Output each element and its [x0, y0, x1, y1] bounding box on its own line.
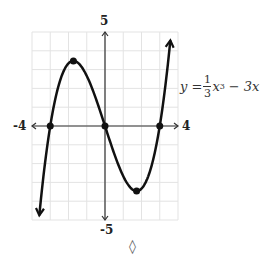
- x-min-label: -4: [13, 119, 26, 133]
- eq-var: x: [212, 79, 219, 94]
- eq-denominator: 3: [204, 88, 211, 99]
- eq-fraction: 1 3: [203, 74, 211, 99]
- eq-numerator: 1: [204, 74, 211, 85]
- y-max-label: 5: [100, 14, 108, 28]
- cubic-graph: [0, 0, 267, 266]
- eq-rest: − 3x: [229, 79, 260, 94]
- diamond-icon: ◊: [129, 238, 136, 254]
- equation-label: y = 1 3 x3 − 3x: [180, 74, 259, 99]
- eq-exponent: 3: [220, 82, 225, 91]
- x-max-label: 4: [182, 119, 190, 133]
- y-min-label: -5: [100, 223, 113, 237]
- eq-lhs: y =: [180, 79, 202, 94]
